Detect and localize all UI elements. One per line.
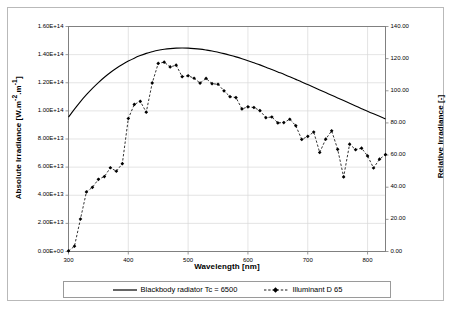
legend-item-illuminant-d65: Illuminant D 65: [263, 285, 342, 294]
y-axis-right-title: Relative Irradiance [-]: [436, 62, 445, 212]
legend-label-blackbody: Blackbody radiator Tc = 6500: [141, 285, 238, 294]
y-axis-right-tick-label: 80.00: [391, 119, 431, 125]
y-axis-right-tick-label: 100.00: [391, 87, 431, 93]
y-axis-left-tick-label: 1.20E+14: [0, 79, 64, 85]
chart-legend: Blackbody radiator Tc = 6500 Illuminant …: [63, 281, 391, 298]
y-axis-right-tick-label: 140.00: [391, 23, 431, 29]
y-axis-left-title: Absolute Irradiance [W.m-2.m-1]: [11, 63, 23, 213]
legend-swatch-solid-line: [112, 286, 138, 294]
y-axis-left-tick-label: 4.00E+13: [0, 191, 64, 197]
gridlines: [69, 27, 386, 252]
y-axis-left-tick-label: 1.40E+14: [0, 51, 64, 57]
y-axis-left-tick-label: 2.00E+13: [0, 219, 64, 225]
series-line-illuminant-d65: [69, 62, 386, 251]
y-axis-right-tick-label: 20.00: [391, 215, 431, 221]
x-axis-title: Wavelength [nm]: [68, 262, 386, 271]
y-axis-right-tick-label: 60.00: [391, 151, 431, 157]
axis-ticks: [66, 27, 389, 255]
y-axis-left-tick-label: 0.00E+00: [0, 248, 64, 254]
series-line-blackbody: [69, 48, 386, 119]
legend-item-blackbody: Blackbody radiator Tc = 6500: [112, 285, 238, 294]
y-axis-left-title-mid: .m: [14, 85, 23, 95]
y-axis-right-tick-label: 0.00: [391, 248, 431, 254]
y-axis-left-tick-label: 8.00E+13: [0, 135, 64, 141]
legend-label-illuminant-d65: Illuminant D 65: [292, 285, 342, 294]
y-axis-left-tick-label: 1.60E+14: [0, 23, 64, 29]
y-axis-left-title-exp2: -1: [11, 79, 18, 85]
y-axis-left-title-end: ]: [14, 76, 23, 79]
y-axis-right-tick-label: 120.00: [391, 55, 431, 61]
y-axis-left-title-main: Absolute Irradiance [W.m: [14, 101, 23, 199]
y-axis-right-tick-label: 40.00: [391, 183, 431, 189]
y-axis-left-tick-label: 1.00E+14: [0, 107, 64, 113]
y-axis-left-tick-label: 6.00E+13: [0, 163, 64, 169]
legend-swatch-dashed-marker: [263, 286, 289, 294]
y-axis-left-title-exp1: -2: [11, 95, 18, 101]
chart-figure: 0.00E+002.00E+134.00E+136.00E+138.00E+13…: [0, 0, 453, 310]
